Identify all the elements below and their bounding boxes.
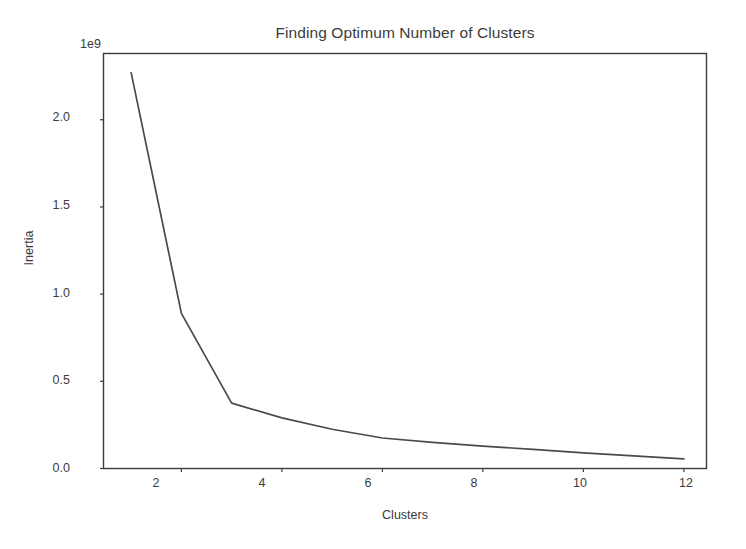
inertia-line-series xyxy=(131,73,684,459)
chart-figure: Finding Optimum Number of Clusters 1e9 I… xyxy=(0,0,746,549)
axes-frame xyxy=(104,54,707,469)
plot-area xyxy=(0,0,746,549)
